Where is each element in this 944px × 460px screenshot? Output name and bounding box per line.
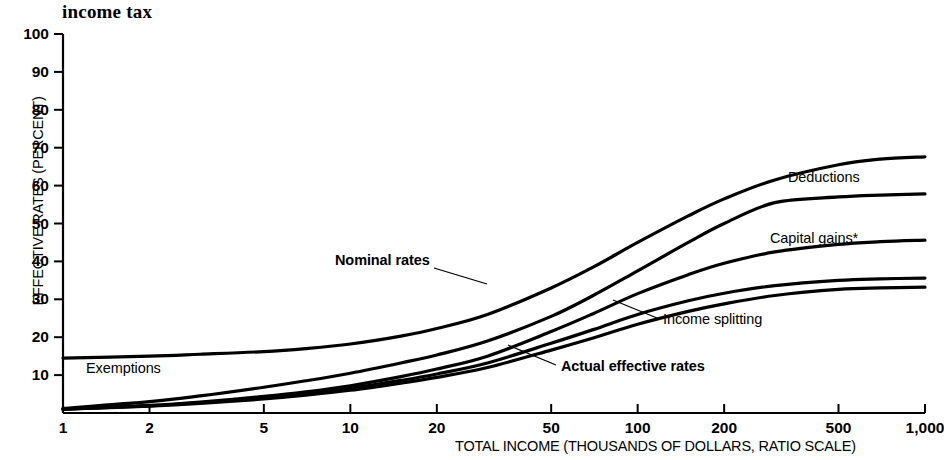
curve-capital-gains [63, 278, 925, 409]
leader-line-nominal-rates [434, 268, 487, 284]
curve-exemptions [63, 194, 925, 409]
curve-nominal-rates [63, 157, 925, 358]
curve-deductions [63, 240, 925, 409]
data-curves [63, 157, 925, 409]
curve-income-splitting [63, 287, 925, 409]
